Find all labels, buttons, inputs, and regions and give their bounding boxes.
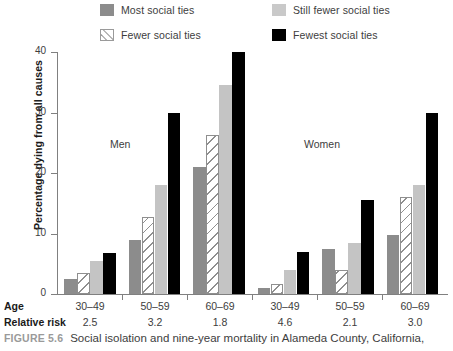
age-cell: 60–69	[383, 300, 447, 312]
bar-still-fewer-social-ties	[155, 185, 168, 294]
age-cell: 30–49	[58, 300, 122, 312]
figure-number: FIGURE 5.6	[4, 332, 63, 344]
y-axis-tick-label: 40	[6, 45, 46, 56]
bar-still-fewer-social-ties	[348, 243, 361, 294]
y-axis-tick	[51, 173, 58, 174]
age-cell: 50–59	[318, 300, 382, 312]
legend-label: Still fewer social ties	[293, 4, 390, 16]
legend-item-still-fewer-social-ties: Still fewer social ties	[272, 4, 390, 16]
relative-risk-cell: 2.5	[58, 316, 122, 328]
plot-area: Percentage dying from all causes 0 10 20…	[0, 45, 453, 300]
bar-most-social-ties	[387, 235, 400, 294]
legend-item-fewer-social-ties: Fewer social ties	[100, 29, 201, 41]
hatched-swatch-icon	[100, 29, 114, 41]
bar-most-social-ties	[322, 249, 335, 294]
legend-item-fewest-social-ties: Fewest social ties	[272, 29, 378, 41]
hatch-fill	[78, 274, 89, 293]
bar-fewest-social-ties	[426, 113, 439, 295]
bar-fewest-social-ties	[361, 200, 374, 294]
bar-still-fewer-social-ties	[284, 270, 297, 294]
bar-still-fewer-social-ties	[219, 85, 232, 294]
legend-label: Fewest social ties	[293, 29, 378, 41]
hatch-fill	[143, 218, 154, 293]
bar-fewest-social-ties	[232, 52, 245, 294]
legend-label: Most social ties	[121, 4, 194, 16]
y-axis-tick-label: 30	[6, 106, 46, 117]
bar-fewest-social-ties	[297, 252, 310, 294]
bars-layer	[58, 52, 448, 294]
relative-risk-row-title: Relative risk	[4, 316, 66, 328]
hatch-fill	[272, 285, 283, 293]
legend-label: Fewer social ties	[121, 29, 201, 41]
y-axis-tick-label: 0	[6, 287, 46, 298]
y-axis-tick	[51, 294, 58, 295]
bar-fewest-social-ties	[103, 253, 116, 294]
relative-risk-cell: 3.0	[383, 316, 447, 328]
hatch-fill	[336, 271, 347, 293]
bar-most-social-ties	[129, 240, 142, 294]
bar-fewest-social-ties	[168, 113, 181, 295]
solid-black-swatch-icon	[272, 29, 286, 41]
y-axis-tick-label: 10	[6, 227, 46, 238]
hatch-fill	[401, 198, 412, 293]
relative-risk-cell: 1.8	[188, 316, 252, 328]
y-axis-tick-label: 20	[6, 166, 46, 177]
hatch-fill	[207, 136, 218, 293]
y-axis-tick	[51, 52, 58, 53]
age-row-title: Age	[4, 300, 24, 312]
age-cell: 50–59	[123, 300, 187, 312]
bar-fewer-social-ties	[206, 135, 219, 294]
bar-fewer-social-ties	[77, 273, 90, 294]
figure-container: Most social ties Still fewer social ties…	[0, 0, 453, 351]
bar-still-fewer-social-ties	[90, 261, 103, 294]
relative-risk-cell: 4.6	[253, 316, 317, 328]
axis-data-rows: Age Relative risk 30–49 50–59 60–69 30–4…	[0, 300, 453, 331]
age-cell: 30–49	[253, 300, 317, 312]
bar-fewer-social-ties	[400, 197, 413, 294]
bar-most-social-ties	[64, 279, 77, 294]
figure-caption-text: Social isolation and nine-year mortality…	[70, 332, 424, 344]
bar-fewer-social-ties	[271, 284, 284, 294]
bar-fewer-social-ties	[142, 217, 155, 294]
figure-caption: FIGURE 5.6Social isolation and nine-year…	[4, 332, 453, 344]
solid-lightgray-swatch-icon	[272, 4, 286, 16]
relative-risk-cell: 3.2	[123, 316, 187, 328]
y-axis-tick	[51, 234, 58, 235]
bar-most-social-ties	[258, 288, 271, 294]
bar-fewer-social-ties	[335, 270, 348, 294]
solid-gray-swatch-icon	[100, 4, 114, 16]
legend-item-most-social-ties: Most social ties	[100, 4, 194, 16]
relative-risk-cell: 2.1	[318, 316, 382, 328]
age-cell: 60–69	[188, 300, 252, 312]
y-axis-tick	[51, 113, 58, 114]
bar-still-fewer-social-ties	[413, 185, 426, 294]
bar-most-social-ties	[193, 167, 206, 294]
